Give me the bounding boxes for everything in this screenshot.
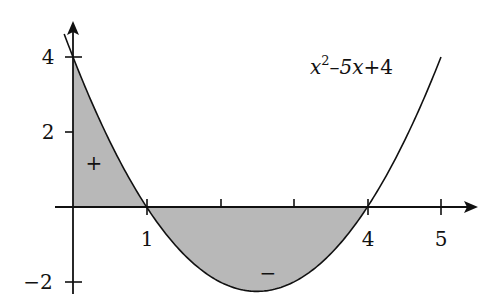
y-tick-label-2: 2 <box>42 120 55 144</box>
x-tick-label-1: 1 <box>141 227 154 251</box>
positive-sign-marker: + <box>86 151 103 175</box>
function-label-minus: – <box>330 55 340 79</box>
negative-sign-marker: − <box>260 261 277 285</box>
function-label-plus-const: +4 <box>364 55 393 79</box>
function-label-base: x <box>310 55 321 79</box>
function-label-exponent: 2 <box>321 53 329 68</box>
function-area-diagram: 1 4 5 4 2 −2 + − x2–5x+4 <box>0 0 501 306</box>
y-tick-label-neg2: −2 <box>23 270 52 294</box>
x-tick-label-5: 5 <box>435 227 448 251</box>
function-label: x2–5x+4 <box>310 53 393 79</box>
y-tick-label-4: 4 <box>42 45 55 69</box>
positive-area-region <box>73 57 147 207</box>
function-label-term: 5x <box>340 55 364 79</box>
x-tick-label-4: 4 <box>362 227 375 251</box>
